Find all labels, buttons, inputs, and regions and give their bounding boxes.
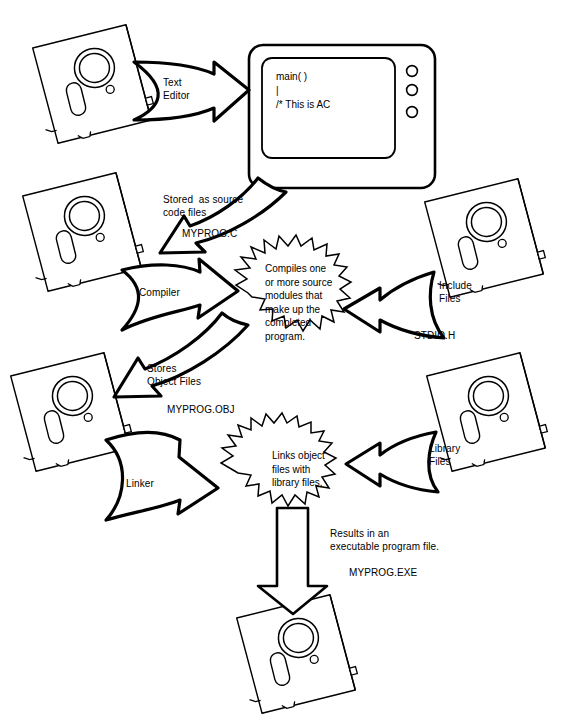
arrow-label-library: Library Files [429,443,460,468]
arrow-label-include: Include Files [439,280,472,305]
monitor-button-2 [407,85,418,96]
note-result: Results in an executable program file. [330,528,439,553]
diagram-canvas: main( ) | /* This is AC Text Editor Stor… [0,0,561,718]
arrow-label-linker: Linker [126,478,154,491]
disk-text-editor [32,24,155,144]
arrow-label-stores-object: Stores Object Files [147,363,201,388]
monitor-button-1 [407,66,418,77]
screen-line-2: | [276,84,279,98]
screen-line-3: /* This is AC [276,98,330,112]
arrow-label-text-editor: Text Editor [163,77,190,102]
monitor-button-3 [407,107,418,118]
arrow-label-stored-source: Stored as source code files [163,194,243,219]
filename-executable: MYPROG.EXE [349,567,417,580]
arrow-include [344,272,444,338]
filename-source: MYPROG.C [182,228,237,241]
filename-object: MYPROG.OBJ [167,404,235,417]
arrow-label-compiler: Compiler [139,287,180,300]
arrow-text-editor [134,62,249,121]
burst-text-linker: Links object files with library files. [272,449,325,490]
filename-include: STDIO.H [414,330,455,343]
computer-monitor [249,45,435,188]
arrow-library [346,432,438,492]
disk-object [10,352,133,472]
burst-text-compiler: Compiles one or more source modules that… [265,262,332,343]
screen-line-1: main( ) [276,70,307,84]
arrow-linker [106,433,218,521]
